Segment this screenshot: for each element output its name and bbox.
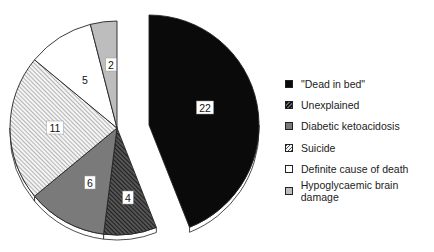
pie-slice bbox=[149, 15, 259, 227]
slice-value-label: 4 bbox=[125, 192, 131, 204]
legend-item-definite-cause: Definite cause of death bbox=[285, 159, 434, 180]
slice-value-label: 11 bbox=[50, 122, 61, 134]
slice-value-label: 5 bbox=[82, 74, 88, 86]
legend: "Dead in bed" Unexplained Diabetic ketoa… bbox=[285, 73, 434, 201]
slice-value-label: 2 bbox=[108, 59, 114, 71]
legend-item-dead-in-bed: "Dead in bed" bbox=[285, 73, 434, 94]
legend-item-unexplained: Unexplained bbox=[285, 94, 434, 115]
legend-item-diabetic-ketoacidosis: Diabetic ketoacidosis bbox=[285, 116, 434, 137]
legend-label: "Dead in bed" bbox=[301, 78, 365, 90]
legend-swatch-icon bbox=[285, 144, 293, 152]
legend-label: Hypoglycaemic brain damage bbox=[301, 179, 434, 203]
legend-label: Diabetic ketoacidosis bbox=[301, 120, 400, 132]
legend-item-suicide: Suicide bbox=[285, 137, 434, 158]
legend-item-hypoglycaemic: Hypoglycaemic brain damage bbox=[285, 180, 434, 201]
legend-label: Definite cause of death bbox=[301, 163, 408, 175]
legend-swatch-icon bbox=[285, 101, 293, 109]
legend-label: Unexplained bbox=[301, 99, 359, 111]
legend-label: Suicide bbox=[301, 142, 335, 154]
legend-swatch-icon bbox=[285, 80, 293, 88]
slice-value-label: 6 bbox=[87, 177, 93, 189]
slice-value-label: 22 bbox=[199, 102, 211, 114]
legend-swatch-icon bbox=[285, 187, 293, 195]
legend-swatch-icon bbox=[285, 165, 293, 173]
legend-swatch-icon bbox=[285, 122, 293, 130]
